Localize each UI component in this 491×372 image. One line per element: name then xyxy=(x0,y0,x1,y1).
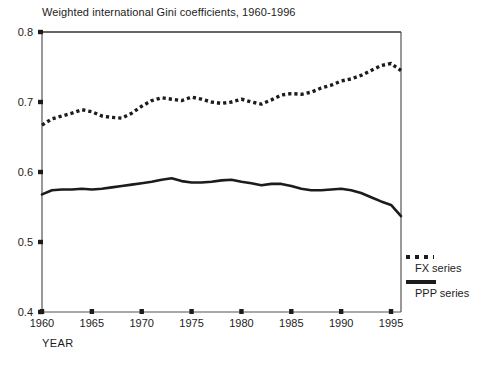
chart-legend: FX series PPP series xyxy=(404,255,490,305)
y-axis-ticks: 0.40.50.60.70.8 xyxy=(18,26,43,318)
chart-page: Weighted international Gini coefficients… xyxy=(0,0,491,372)
series-line-fx xyxy=(42,64,401,126)
legend-entry-fx: FX series xyxy=(404,255,490,274)
x-tick-label: 1985 xyxy=(279,317,303,329)
plot-area: 0.40.50.60.70.81960196519701975198019851… xyxy=(0,0,491,372)
axis-frame xyxy=(42,32,401,312)
series-line-ppp xyxy=(42,178,401,216)
x-tick-label: 1970 xyxy=(129,317,153,329)
legend-entry-ppp: PPP series xyxy=(404,280,490,299)
dotted-line-swatch-icon xyxy=(406,255,434,259)
y-tick-label: 0.5 xyxy=(18,236,33,248)
x-tick-label: 1975 xyxy=(179,317,203,329)
y-tick-label: 0.8 xyxy=(18,26,33,38)
x-tick-label: 1995 xyxy=(379,317,403,329)
legend-label-ppp: PPP series xyxy=(404,287,490,299)
x-tick-label: 1965 xyxy=(80,317,104,329)
legend-label-fx: FX series xyxy=(404,262,490,274)
x-tick-label: 1960 xyxy=(30,317,54,329)
y-tick-label: 0.7 xyxy=(18,96,33,108)
x-tick-label: 1990 xyxy=(329,317,353,329)
y-tick-label: 0.6 xyxy=(18,166,33,178)
x-tick-label: 1980 xyxy=(229,317,253,329)
x-axis-title: YEAR xyxy=(42,337,74,349)
solid-line-swatch-icon xyxy=(406,280,436,284)
